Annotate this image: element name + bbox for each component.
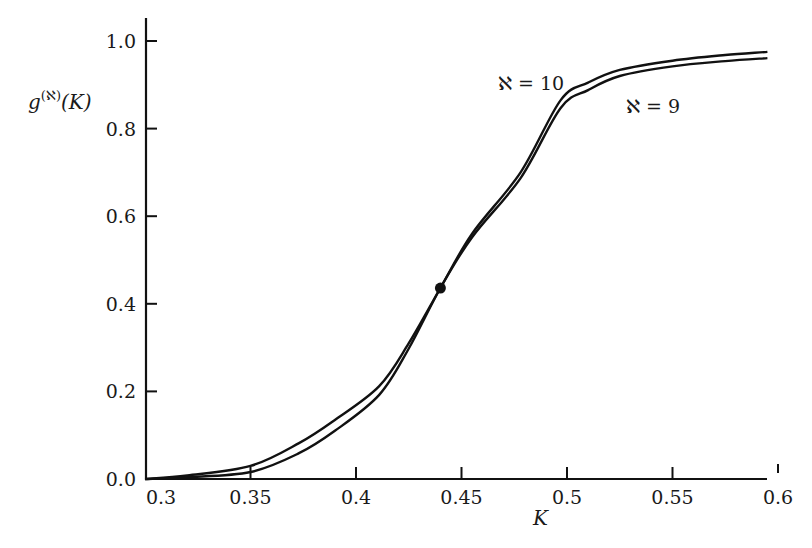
x-ticks: 0.30.350.40.450.50.550.6 — [146, 464, 793, 508]
series-line-aleph-9 — [145, 58, 767, 479]
y-axis-title: g(ℵ)(K) — [28, 88, 92, 114]
y-axis-title-base: g — [28, 90, 41, 114]
x-tick-label: 0.5 — [552, 486, 582, 508]
y-tick-label: 0.2 — [106, 380, 136, 402]
series-label-aleph-9: ℵ = 9 — [626, 95, 680, 117]
crossing-point-marker — [435, 283, 446, 294]
series-label-aleph-10: ℵ = 10 — [498, 72, 564, 94]
x-tick-label: 0.35 — [229, 486, 271, 508]
x-axis-title: K — [532, 506, 549, 530]
y-tick-label: 0.4 — [106, 293, 136, 315]
y-tick-label: 1.0 — [106, 30, 136, 52]
x-tick-label: 0.45 — [440, 486, 482, 508]
chart: 0.00.20.40.60.81.0 0.30.350.40.450.50.55… — [0, 0, 812, 548]
y-tick-label: 0.8 — [106, 118, 136, 140]
y-tick-label: 0.0 — [106, 468, 136, 490]
x-tick-label: 0.3 — [146, 486, 176, 508]
y-axis-title-argument: (K) — [61, 90, 92, 114]
y-axis-title-superscript: (ℵ) — [41, 88, 61, 103]
y-tick-label: 0.6 — [106, 205, 136, 227]
x-tick-label: 0.6 — [763, 486, 793, 508]
y-ticks: 0.00.20.40.60.81.0 — [106, 30, 157, 490]
x-tick-label: 0.55 — [651, 486, 693, 508]
x-tick-label: 0.4 — [341, 486, 371, 508]
